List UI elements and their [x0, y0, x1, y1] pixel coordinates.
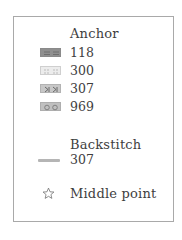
- anchor-code-300: 300: [70, 63, 94, 78]
- backstitch-code-307: 307: [70, 152, 94, 167]
- anchor-code-307: 307: [70, 81, 94, 96]
- backstitch-heading: Backstitch: [70, 137, 141, 152]
- swatch-300-icon: [40, 66, 61, 75]
- swatch-307-icon: [40, 84, 61, 93]
- middle-point-label: Middle point: [70, 186, 156, 201]
- anchor-code-969: 969: [70, 99, 94, 114]
- star-outline-icon: [42, 187, 55, 200]
- anchor-code-118: 118: [70, 45, 94, 60]
- swatch-118-icon: [40, 48, 61, 57]
- backstitch-line-icon: [38, 159, 60, 162]
- anchor-heading: Anchor: [70, 26, 119, 41]
- swatch-969-icon: [40, 102, 61, 111]
